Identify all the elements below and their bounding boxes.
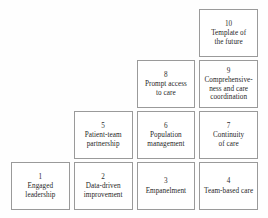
block-3-number: 3	[164, 177, 168, 185]
block-3-label: Empanelment	[146, 187, 186, 195]
block-4-number: 4	[227, 177, 231, 185]
staircase-diagram: 10 Template of the future 8 Prompt acces…	[0, 0, 268, 218]
block-9-number: 9	[227, 67, 231, 75]
block-5-number: 5	[101, 122, 105, 130]
block-8-label: Prompt access to care	[145, 80, 187, 97]
block-2-label: Data-driven improvement	[84, 182, 123, 199]
block-grid: 10 Template of the future 8 Prompt acces…	[11, 9, 258, 210]
block-6[interactable]: 6 Population management	[137, 111, 196, 159]
block-4[interactable]: 4 Team-based care	[199, 162, 258, 210]
block-7-label: Continuity of care	[213, 131, 244, 148]
block-5-label: Patient-team partnership	[85, 131, 122, 148]
block-6-label: Population management	[147, 131, 184, 148]
block-4-label: Team-based care	[204, 187, 253, 195]
block-10-number: 10	[225, 20, 232, 28]
block-9[interactable]: 9 Comprehensive- ness and care coordinat…	[199, 60, 258, 108]
block-8[interactable]: 8 Prompt access to care	[137, 60, 196, 108]
block-6-number: 6	[164, 122, 168, 130]
block-7-number: 7	[227, 122, 231, 130]
block-10[interactable]: 10 Template of the future	[199, 9, 258, 57]
block-2[interactable]: 2 Data-driven improvement	[74, 162, 133, 210]
block-7[interactable]: 7 Continuity of care	[199, 111, 258, 159]
block-1-label: Engaged leadership	[25, 182, 55, 199]
block-5[interactable]: 5 Patient-team partnership	[74, 111, 133, 159]
block-9-label: Comprehensive- ness and care coordinatio…	[205, 76, 253, 101]
block-1-number: 1	[39, 173, 43, 181]
block-8-number: 8	[164, 71, 168, 79]
block-1[interactable]: 1 Engaged leadership	[11, 162, 70, 210]
block-3[interactable]: 3 Empanelment	[137, 162, 196, 210]
block-2-number: 2	[101, 173, 105, 181]
block-10-label: Template of the future	[211, 29, 246, 46]
